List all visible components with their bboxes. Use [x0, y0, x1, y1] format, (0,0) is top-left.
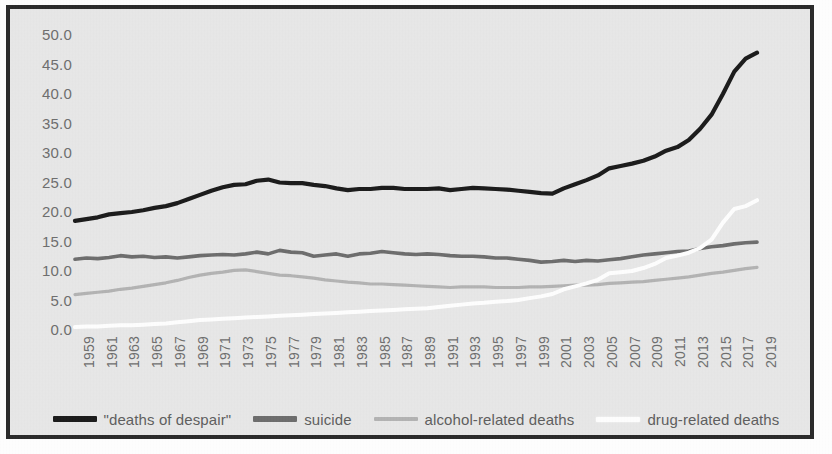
x-axis-tick: 2013	[695, 336, 711, 368]
legend-swatch-icon	[53, 416, 97, 422]
legend-swatch-icon	[253, 416, 297, 422]
x-axis-tick: 1961	[104, 336, 120, 368]
x-axis-tick: 1991	[445, 336, 461, 368]
x-axis-tick: 1987	[399, 336, 415, 368]
x-axis-tick: 1967	[172, 336, 188, 368]
x-axis-tick: 1965	[149, 336, 165, 368]
legend-label: "deaths of despair"	[104, 411, 232, 428]
x-axis-tick: 2005	[604, 336, 620, 368]
x-axis-tick: 1995	[490, 336, 506, 368]
legend-item[interactable]: "deaths of despair"	[53, 411, 232, 428]
x-axis-tick: 2007	[627, 336, 643, 368]
x-axis-tick: 1977	[286, 336, 302, 368]
chart-figure: 50.045.040.035.030.025.020.015.010.05.00…	[0, 0, 832, 454]
legend-label: suicide	[304, 411, 351, 428]
legend-item[interactable]: alcohol-related deaths	[374, 411, 575, 428]
x-axis-tick: 1963	[126, 336, 142, 368]
x-axis-tick: 1997	[513, 336, 529, 368]
x-axis-tick: 2009	[649, 336, 665, 368]
x-axis-tick: 2017	[740, 336, 756, 368]
legend-swatch-icon	[596, 417, 640, 422]
x-axis-tick: 1969	[195, 336, 211, 368]
x-axis-tick: 1993	[467, 336, 483, 368]
x-axis-tick: 1971	[217, 336, 233, 368]
legend-item[interactable]: drug-related deaths	[596, 411, 779, 428]
x-axis-tick: 1973	[240, 336, 256, 368]
legend-item[interactable]: suicide	[253, 411, 351, 428]
x-axis-tick: 1981	[331, 336, 347, 368]
chart-legend: "deaths of despair"suicidealcohol-relate…	[0, 404, 832, 434]
x-axis-tick-labels: 1959196119631965196719691971197319751977…	[0, 0, 832, 454]
x-axis-tick: 1989	[422, 336, 438, 368]
x-axis-tick: 1979	[308, 336, 324, 368]
x-axis-tick: 1985	[377, 336, 393, 368]
x-axis-tick: 1999	[536, 336, 552, 368]
x-axis-tick: 2003	[581, 336, 597, 368]
legend-swatch-icon	[374, 417, 418, 421]
x-axis-tick: 2019	[763, 336, 779, 368]
x-axis-tick: 1983	[354, 336, 370, 368]
legend-label: drug-related deaths	[647, 411, 779, 428]
x-axis-tick: 2001	[558, 336, 574, 368]
x-axis-tick: 1959	[81, 336, 97, 368]
x-axis-tick: 2015	[718, 336, 734, 368]
legend-label: alcohol-related deaths	[425, 411, 575, 428]
x-axis-tick: 1975	[263, 336, 279, 368]
x-axis-tick: 2011	[672, 336, 688, 367]
